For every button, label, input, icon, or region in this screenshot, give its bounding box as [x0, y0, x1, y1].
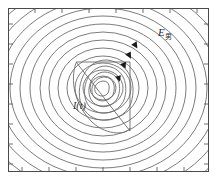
label-inner-cycle: I(t) — [73, 101, 86, 111]
phase-portrait-figure: E男 I(t) — [0, 0, 217, 182]
label-outer-field: E男 — [158, 27, 171, 41]
label-outer-field-subscript: 男 — [165, 33, 172, 41]
phase-portrait-canvas — [0, 0, 217, 182]
label-outer-field-base: E — [158, 26, 165, 38]
